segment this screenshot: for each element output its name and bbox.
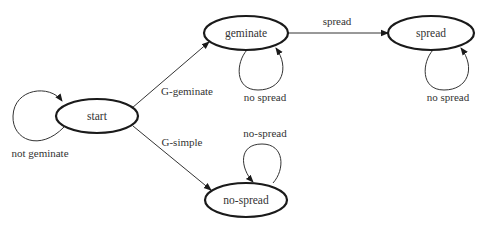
node-spread: spread	[388, 16, 474, 50]
edge-label-spread-no-spread: no spread	[427, 91, 470, 103]
node-geminate: geminate	[204, 16, 288, 50]
state-diagram: start geminate spread no-spread not gemi…	[0, 0, 480, 235]
node-no-spread: no-spread	[205, 183, 287, 217]
edge-label-spread: spread	[323, 15, 352, 27]
node-start: start	[56, 99, 138, 133]
edge-label-g-simple: G-simple	[162, 136, 203, 148]
edge-label-not-geminate: not geminate	[11, 147, 68, 159]
node-no-spread-label: no-spread	[223, 194, 269, 207]
edge-spread-loop	[425, 48, 468, 90]
node-start-label: start	[87, 110, 108, 122]
node-geminate-label: geminate	[225, 27, 267, 40]
edge-label-no-spread-loop: no-spread	[243, 127, 287, 139]
edge-geminate-loop	[239, 48, 283, 90]
node-spread-label: spread	[416, 27, 446, 40]
edge-label-g-geminate: G-geminate	[161, 85, 213, 97]
edge-label-geminate-no-spread: no spread	[244, 91, 287, 103]
edge-no-spread-loop	[243, 144, 280, 183]
edge-start-to-geminate	[132, 42, 209, 108]
